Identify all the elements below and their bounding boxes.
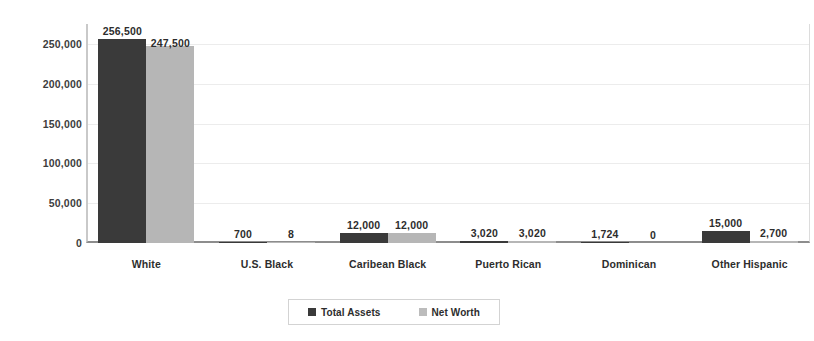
bar-chart: 050,000100,000150,000200,000250,000 256,…: [0, 0, 814, 341]
y-axis-tick-label: 200,000: [6, 79, 82, 90]
legend-swatch-icon: [419, 308, 427, 316]
bar: [581, 242, 629, 244]
bar-value-label: 247,500: [136, 37, 204, 49]
bar-value-label: 0: [619, 229, 687, 241]
y-axis-tick-label: 0: [6, 238, 82, 249]
category-axis-label: Dominican: [602, 258, 657, 270]
y-axis-tick-label: 50,000: [6, 198, 82, 209]
bar: [146, 46, 194, 243]
category-axis-label: Caribean Black: [349, 258, 426, 270]
bar: [508, 241, 556, 243]
gridline: [88, 84, 809, 85]
y-axis-tick-label: 150,000: [6, 119, 82, 130]
gridline: [88, 124, 809, 125]
y-axis-tick-label: 100,000: [6, 158, 82, 169]
y-axis: 050,000100,000150,000200,000250,000: [0, 24, 82, 243]
bar: [267, 242, 315, 244]
legend-item[interactable]: Total Assets: [308, 307, 381, 318]
gridline: [88, 203, 809, 204]
bar-value-label: 3,020: [498, 227, 566, 239]
bar: [750, 241, 798, 243]
category-axis-label: U.S. Black: [241, 258, 293, 270]
bar: [219, 242, 267, 244]
legend-label: Total Assets: [321, 307, 381, 318]
bar-value-label: 256,500: [88, 25, 156, 37]
bar-value-label: 12,000: [378, 219, 446, 231]
y-axis-tick-label: 250,000: [6, 39, 82, 50]
bar-value-label: 8: [257, 228, 325, 240]
category-axis-label: Puerto Rican: [475, 258, 541, 270]
bar: [388, 233, 436, 243]
legend-item[interactable]: Net Worth: [419, 307, 481, 318]
category-axis-label: White: [132, 258, 161, 270]
chart-legend: Total AssetsNet Worth: [288, 299, 500, 325]
category-axis-label: Other Hispanic: [712, 258, 788, 270]
plot-area: [86, 24, 810, 243]
legend-label: Net Worth: [432, 307, 481, 318]
bar: [340, 233, 388, 243]
gridline: [88, 163, 809, 164]
bar: [460, 241, 508, 243]
legend-swatch-icon: [308, 308, 316, 316]
bar: [98, 39, 146, 243]
bar-value-label: 2,700: [740, 227, 808, 239]
